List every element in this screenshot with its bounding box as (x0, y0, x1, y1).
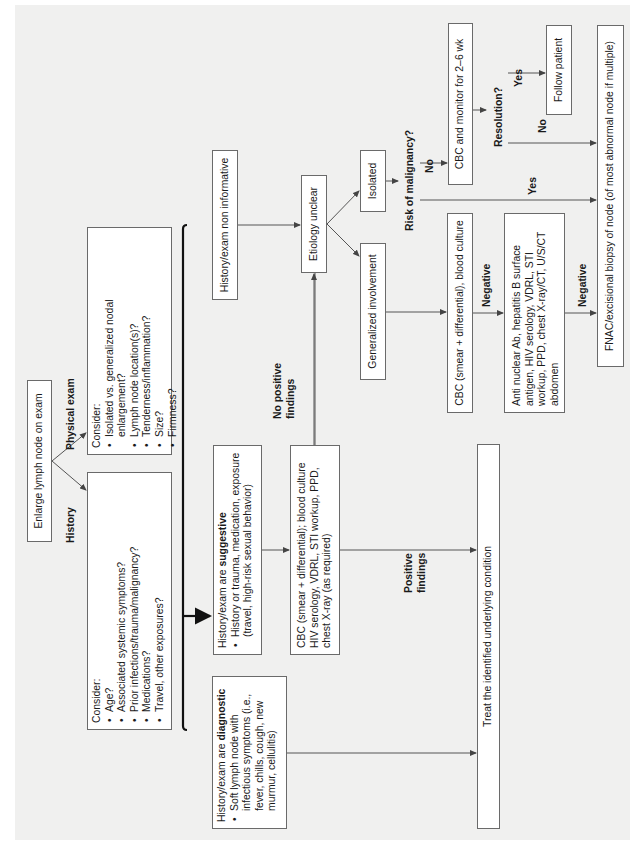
start-node: Enlarge lymph node on exam (27, 380, 52, 542)
start-node-label: Enlarge lymph node on exam (33, 393, 46, 528)
resolution-label: Resolution? (493, 87, 506, 147)
treat-condition-box: Treat the identified underlying conditio… (477, 444, 500, 829)
etiology-unclear-box: Etiology unclear (301, 175, 327, 273)
physical-exam-consider-box: Consider: Isolated vs. generalized nodal… (87, 227, 172, 455)
diagnostic-list: Soft lymph node with infectious symptoms… (229, 683, 279, 822)
cbc-monitor-label: CBC and monitor for 2–6 wk (454, 39, 467, 170)
suggestive-heading-bold: suggestive (217, 512, 228, 566)
negative-label-2: Negative (577, 264, 590, 307)
history-item: Prior infections/trauma/malignancy? (129, 479, 142, 712)
suggestive-heading-prefix: History/exam are (217, 567, 228, 648)
etiology-label: Etiology unclear (308, 187, 321, 261)
cbc-culture-box: CBC (smear + differential), blood cultur… (447, 213, 473, 413)
antinuclear-label: Anti nuclear Ab, hepatitis B surface ant… (511, 232, 560, 406)
physical-item: Lymph node location(s)? (129, 234, 142, 437)
isolated-label: Isolated (367, 163, 380, 199)
positive-findings-label: Positive findings (403, 533, 428, 593)
suggestive-box: History/exam are suggestive History or t… (213, 445, 262, 655)
physical-exam-branch-label: Physical exam (65, 378, 78, 450)
suggestive-item: History or trauma, medication, exposure … (230, 452, 255, 637)
cbc-monitor-box: CBC and monitor for 2–6 wk (448, 23, 473, 185)
cbc-workup-label: CBC (smear + differential); blood cultur… (296, 463, 332, 648)
history-item: Travel, other exposures? (154, 479, 167, 712)
suggestive-list: History or trauma, medication, exposure … (230, 452, 255, 648)
flowchart-canvas: Enlarge lymph node on exam History Physi… (0, 0, 640, 863)
generalized-box: Generalized involvement (360, 243, 386, 380)
antinuclear-workup-box: Anti nuclear Ab, hepatitis B surface ant… (504, 213, 565, 413)
history-item: Medications? (141, 479, 154, 712)
diagnostic-box: History/exam are diagnostic Soft lymph n… (212, 676, 287, 829)
diagnostic-heading-bold: diagnostic (216, 689, 227, 741)
diagnostic-heading: History/exam are diagnostic (216, 683, 229, 822)
fnac-biopsy-box: FNAC/excisional biopsy of node (of most … (597, 25, 624, 367)
history-branch-label: History (65, 507, 78, 543)
history-consider-box: Consider: Age? Associated systemic sympt… (87, 472, 172, 730)
history-item: Age? (104, 479, 117, 712)
treat-label: Treat the identified underlying conditio… (482, 546, 495, 727)
physical-heading: Consider: (91, 234, 104, 448)
risk-no-label: No (424, 159, 437, 173)
suggestive-heading: History/exam are suggestive (217, 452, 230, 648)
follow-patient-box: Follow patient (546, 25, 572, 115)
cbc-culture-label: CBC (smear + differential), blood cultur… (454, 220, 467, 405)
cbc-workup-box: CBC (smear + differential); blood cultur… (290, 445, 340, 655)
risk-yes-label: Yes (527, 177, 540, 195)
history-heading: Consider: (91, 479, 104, 723)
negative-label-1: Negative (481, 264, 494, 307)
isolated-box: Isolated (360, 150, 386, 212)
physical-item: Tenderness/inflammation? (141, 234, 154, 437)
history-list: Age? Associated systemic symptoms? Prior… (104, 479, 167, 723)
physical-item: Isolated vs. generalized nodal enlargeme… (104, 234, 129, 437)
history-item: Associated systemic symptoms? (116, 479, 129, 712)
non-informative-label: History/exam non informative (219, 158, 232, 293)
non-informative-box: History/exam non informative (212, 150, 238, 300)
diagnostic-item: Soft lymph node with infectious symptoms… (229, 683, 279, 811)
diagnostic-heading-prefix: History/exam are (216, 741, 227, 822)
resolution-no-label: No (537, 119, 550, 133)
physical-item: Firmness? (167, 234, 180, 437)
physical-item: Size? (154, 234, 167, 437)
resolution-yes-label: Yes (513, 69, 526, 87)
no-positive-findings-label: No positive findings (272, 349, 297, 419)
fnac-label: FNAC/excisional biopsy of node (of most … (604, 41, 617, 351)
physical-list: Isolated vs. generalized nodal enlargeme… (104, 234, 180, 448)
risk-of-malignancy-label: Risk of malignancy? (404, 130, 417, 231)
follow-label: Follow patient (553, 38, 566, 102)
generalized-label: Generalized involvement (367, 254, 380, 368)
